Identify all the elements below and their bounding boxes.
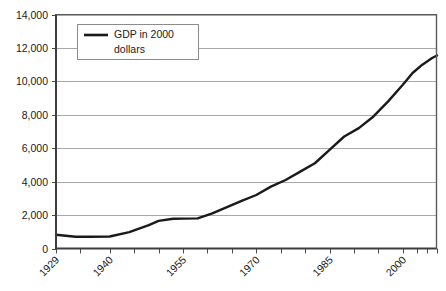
y-axis-tick-label: 6,000 (22, 142, 48, 154)
y-axis-tick-label: 4,000 (22, 176, 48, 188)
chart-legend: GDP in 2000 dollars (78, 25, 199, 60)
legend-label-line1: GDP in 2000 (114, 28, 174, 40)
y-axis-tick-label: 0 (42, 243, 48, 255)
y-axis-tick-label: 14,000 (16, 9, 48, 21)
chart-figure: 02,0004,0006,0008,00010,00012,00014,000 … (0, 0, 446, 291)
y-axis-tick-label: 2,000 (22, 209, 48, 221)
legend-label-line2: dollars (114, 43, 145, 55)
y-axis-tick-label: 10,000 (16, 75, 48, 87)
y-axis-tick-label: 12,000 (16, 42, 48, 54)
gdp-line-chart: 02,0004,0006,0008,00010,00012,00014,000 … (0, 0, 446, 291)
y-axis-tick-label: 8,000 (22, 109, 48, 121)
